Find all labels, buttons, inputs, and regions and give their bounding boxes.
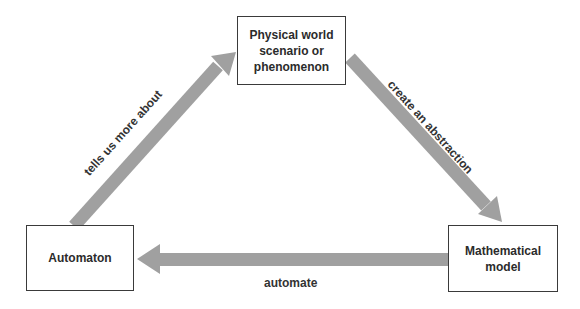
edge-label-automate: automate [264, 276, 317, 290]
node-physical-world: Physical world scenario or phenomenon [237, 16, 346, 85]
node-automaton: Automaton [26, 225, 134, 291]
node-label: Mathematical model [465, 243, 541, 275]
node-label: Automaton [48, 250, 111, 266]
diagram-canvas: Physical world scenario or phenomenon Au… [0, 0, 580, 309]
arrow-automate [137, 244, 448, 274]
node-mathematical-model: Mathematical model [448, 225, 558, 292]
arrow-tells-us-more-about [74, 52, 236, 226]
node-label: Physical world scenario or phenomenon [249, 27, 333, 75]
arrow-create-an-abstraction [350, 58, 502, 222]
